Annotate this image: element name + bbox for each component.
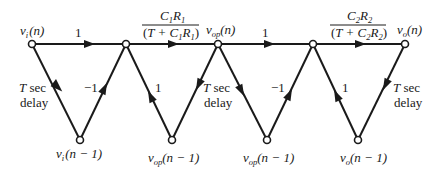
- delay-word-vo: delay: [394, 95, 423, 110]
- label-vop-n1-b: vop(n − 1): [243, 150, 294, 167]
- node-vo-n1: [355, 137, 362, 144]
- arrow-up-icon: [283, 87, 295, 101]
- node-vop-n1-b: [264, 137, 271, 144]
- label-vi-n: vi(n): [20, 23, 44, 40]
- fraction-2-denominator: (T + C2R2): [331, 25, 387, 42]
- gain-label-1-top-a: 1: [75, 25, 82, 40]
- delay-label-vo: T sec: [393, 80, 420, 95]
- label-vop-n1-a: vop(n − 1): [148, 150, 199, 167]
- fraction-1-denominator: (T + C1R1): [143, 25, 199, 42]
- node-vop-n: [215, 41, 222, 48]
- node-sum-b: [310, 41, 317, 48]
- gain-fraction-2: C2R2 (T + C2R2): [330, 8, 387, 42]
- edges-stage-2: [218, 44, 313, 140]
- edges-stage-input: [32, 44, 126, 140]
- label-vo-n: vo(n): [397, 22, 422, 39]
- arrow-right-icon: [355, 40, 366, 48]
- delay-label-vop: T sec: [203, 80, 230, 95]
- delay-word-vi: delay: [20, 95, 49, 110]
- arrow-right-icon: [264, 40, 275, 48]
- fraction-2-numerator: C2R2: [347, 8, 373, 25]
- fraction-1-numerator: C1R1: [160, 8, 185, 25]
- label-vo-n1: vo(n − 1): [340, 150, 387, 167]
- gain-label-1-a: 1: [155, 80, 162, 95]
- node-vi-n: [29, 41, 36, 48]
- delay-label-vi: T sec: [19, 80, 46, 95]
- label-vi-n1: vi(n − 1): [56, 146, 102, 163]
- node-vi-n1: [77, 137, 84, 144]
- gain-label-1-top-b: 1: [262, 25, 269, 40]
- node-vo-n: [402, 41, 409, 48]
- arrow-right-icon: [84, 40, 95, 48]
- node-sum-a: [123, 41, 130, 48]
- gain-label-1-b: 1: [342, 80, 349, 95]
- arrow-down-icon: [235, 84, 248, 98]
- gain-label-neg1-b: −1: [271, 80, 285, 95]
- gain-label-neg1-a: −1: [84, 80, 98, 95]
- signal-flow-graph: vi(n) vop(n) vo(n) vi(n − 1) vop(n − 1) …: [0, 0, 441, 174]
- arrow-up-icon: [330, 88, 342, 102]
- arrow-up-icon: [98, 81, 110, 95]
- delay-word-vop: delay: [204, 95, 233, 110]
- label-vop-n: vop(n): [206, 22, 235, 39]
- gain-fraction-1: C1R1 (T + C1R1): [142, 8, 199, 42]
- node-vop-n1-a: [169, 137, 176, 144]
- edges-output: [313, 44, 405, 140]
- arrow-down-icon: [379, 78, 391, 92]
